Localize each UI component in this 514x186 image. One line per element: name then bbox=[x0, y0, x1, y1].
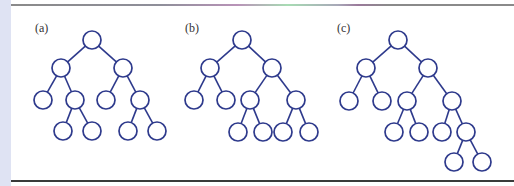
tree-edge bbox=[397, 109, 403, 123]
tree-edge bbox=[433, 75, 446, 93]
tree-edge bbox=[217, 46, 235, 62]
tree-edge bbox=[410, 109, 416, 123]
tree-edge bbox=[68, 46, 86, 62]
tree-node bbox=[66, 91, 84, 109]
tree-node bbox=[201, 59, 219, 77]
tree-node bbox=[389, 31, 407, 49]
tree-edge bbox=[198, 76, 206, 92]
tree-node bbox=[229, 123, 247, 141]
tree-edge bbox=[353, 76, 362, 93]
tree-edge bbox=[66, 108, 72, 122]
tree-b bbox=[185, 31, 318, 141]
tree-node bbox=[185, 91, 203, 109]
tree-node bbox=[340, 92, 358, 110]
tree-edge bbox=[445, 110, 449, 124]
tree-node bbox=[263, 59, 281, 77]
tree-edge bbox=[457, 140, 462, 153]
tree-edge bbox=[286, 108, 292, 123]
tree-edge bbox=[373, 46, 391, 62]
tree-node bbox=[34, 91, 52, 109]
tree-edge bbox=[241, 108, 247, 123]
tree-node bbox=[274, 123, 292, 141]
tree-node bbox=[373, 92, 391, 110]
tree-node bbox=[398, 92, 416, 110]
tree-a bbox=[34, 31, 166, 140]
tree-node bbox=[254, 123, 272, 141]
tree-edge bbox=[249, 46, 266, 62]
tree-edge bbox=[370, 76, 378, 93]
tree-edge bbox=[456, 109, 463, 124]
tree-node bbox=[52, 59, 70, 77]
tree-node bbox=[54, 122, 72, 140]
tree-c bbox=[340, 31, 491, 171]
tree-edge bbox=[470, 140, 478, 154]
tree-edge bbox=[65, 76, 72, 92]
tree-edge bbox=[214, 76, 222, 92]
tree-edge bbox=[299, 108, 305, 123]
tree-edge bbox=[47, 76, 56, 92]
tree-node bbox=[410, 123, 428, 141]
tree-node bbox=[114, 59, 132, 77]
tree-node bbox=[287, 91, 305, 109]
tree-node bbox=[445, 153, 463, 171]
tree-node bbox=[131, 91, 149, 109]
tree-node bbox=[443, 92, 461, 110]
tree-edge bbox=[131, 108, 137, 122]
tree-diagrams bbox=[0, 0, 514, 186]
tree-node bbox=[300, 123, 318, 141]
tree-node bbox=[385, 123, 403, 141]
tree-node bbox=[241, 91, 259, 109]
tree-edge bbox=[79, 108, 87, 123]
tree-edge bbox=[277, 75, 290, 93]
tree-node bbox=[473, 153, 491, 171]
tree-node bbox=[233, 31, 251, 49]
tree-edge bbox=[405, 46, 422, 62]
tree-edge bbox=[99, 46, 117, 62]
tree-node bbox=[83, 122, 101, 140]
tree-edge bbox=[255, 75, 267, 92]
tree-edge bbox=[144, 108, 152, 123]
tree-node bbox=[97, 91, 115, 109]
tree-node bbox=[119, 122, 137, 140]
tree-node bbox=[217, 91, 235, 109]
tree-edge bbox=[110, 76, 119, 92]
tree-node bbox=[148, 122, 166, 140]
tree-node bbox=[419, 59, 437, 77]
tree-node bbox=[357, 59, 375, 77]
tree-node bbox=[457, 123, 475, 141]
tree-edge bbox=[127, 76, 136, 92]
tree-edge bbox=[253, 108, 259, 123]
tree-node bbox=[433, 123, 451, 141]
tree-node bbox=[83, 31, 101, 49]
tree-edge bbox=[412, 76, 423, 94]
